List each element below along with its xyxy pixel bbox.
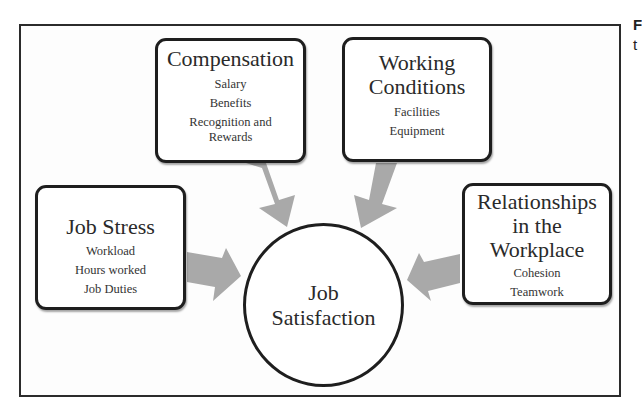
factor-title-line1: Relationships <box>465 190 609 214</box>
factor-item: Salary <box>158 75 303 94</box>
center-title-line2: Satisfaction <box>272 305 376 330</box>
side-caption-text: F <box>633 16 642 33</box>
factor-item: Benefits <box>158 94 303 113</box>
center-node-job-satisfaction: Job Satisfaction <box>243 223 404 387</box>
arrow-compensation-icon <box>246 163 295 227</box>
factor-title: Compensation <box>158 47 303 71</box>
factor-box-job-stress: Job Stress Workload Hours worked Job Dut… <box>35 185 186 310</box>
factor-box-compensation: Compensation Salary Benefits Recognition… <box>155 38 306 163</box>
factor-box-working-conditions: Working Conditions Facilities Equipment <box>342 37 492 162</box>
side-caption-text: t <box>633 36 637 53</box>
factor-item: Facilities <box>345 103 489 122</box>
factor-item: Workload <box>38 242 183 261</box>
factor-box-relationships: Relationships in the Workplace Cohesion … <box>462 183 612 305</box>
factor-item: Job Duties <box>38 280 183 299</box>
factor-title: Job Stress <box>38 215 183 239</box>
factor-title-line1: Working <box>345 51 489 75</box>
factor-item: Hours worked <box>38 261 183 280</box>
factor-title-line2: Conditions <box>345 75 489 99</box>
factor-item: Recognition and Rewards <box>158 115 303 145</box>
factor-item: Equipment <box>345 122 489 141</box>
arrow-job-stress-icon <box>187 248 241 301</box>
center-title-line1: Job <box>308 280 339 305</box>
factor-title-line2: in the <box>465 214 609 238</box>
arrow-relationships-icon <box>407 253 460 301</box>
factor-item: Cohesion <box>465 264 609 283</box>
factor-item: Teamwork <box>465 283 609 302</box>
arrow-working-conditions-icon <box>354 163 397 228</box>
factor-title-line3: Workplace <box>465 238 609 262</box>
